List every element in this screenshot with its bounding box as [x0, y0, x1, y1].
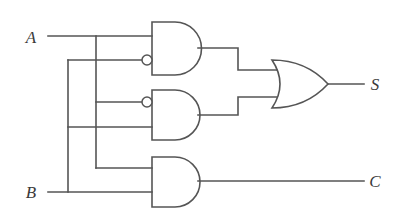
circuit-canvas: A B S C [0, 0, 404, 216]
wire-and1-output-to-or-input [198, 48, 277, 70]
input-label-b: B [26, 183, 37, 202]
wire-and2-output-to-or-input [198, 97, 277, 115]
output-label-c: C [369, 172, 381, 191]
and-gate-top-body [152, 22, 202, 75]
input-label-a: A [25, 28, 37, 47]
and-gate-bottom-body [152, 157, 200, 207]
and-gate-middle-input-bubble-icon [142, 97, 152, 107]
and-gate-middle-body [152, 90, 200, 140]
output-label-s: S [371, 75, 380, 94]
logic-circuit-diagram: A B S C [0, 0, 404, 216]
or-gate-body [272, 60, 328, 108]
and-gate-top-input-bubble-icon [142, 55, 152, 65]
